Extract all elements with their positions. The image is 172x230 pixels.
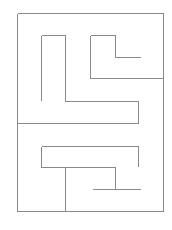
maze-diagram xyxy=(0,0,172,230)
